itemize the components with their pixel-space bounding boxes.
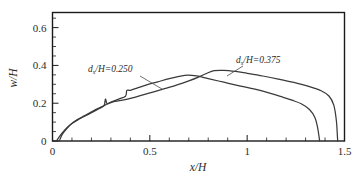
curve-annotations: ds/H=0.250ds/H=0.375 — [88, 55, 281, 75]
leader-line-0 — [140, 76, 162, 89]
data-curves — [56, 70, 337, 141]
data-curve-1 — [59, 70, 337, 141]
label-ds-375-rest: /H=0.375 — [242, 55, 281, 65]
y-tick-label: 0.4 — [33, 59, 47, 71]
x-axis-ticks — [53, 135, 345, 141]
annotation-leaders — [140, 66, 243, 89]
x-tick-label: 1 — [244, 145, 250, 157]
label-ds-250-rest: /H=0.250 — [94, 64, 133, 74]
label-ds-250: ds/H=0.250 — [88, 64, 133, 75]
data-curve-0 — [56, 75, 319, 141]
y-axis-title: w/H — [7, 68, 19, 88]
label-ds-375: ds/H=0.375 — [236, 55, 281, 66]
x-axis-title: x/H — [189, 161, 207, 173]
y-tick-label: 0 — [41, 135, 47, 147]
y-axis-ticks — [53, 18, 59, 141]
x-tick-label: 0 — [50, 145, 56, 157]
y-tick-labels: 00.20.40.6 — [33, 22, 47, 147]
chart-canvas: 00.511.5 00.20.40.6 ds/H=0.250ds/H=0.375… — [0, 0, 363, 177]
x-tick-labels: 00.511.5 — [50, 145, 352, 157]
x-tick-label: 0.5 — [143, 145, 157, 157]
y-tick-label: 0.2 — [33, 97, 47, 109]
figure-container: 00.511.5 00.20.40.6 ds/H=0.250ds/H=0.375… — [0, 0, 363, 177]
x-tick-label: 1.5 — [338, 145, 352, 157]
y-tick-label: 0.6 — [33, 22, 47, 34]
